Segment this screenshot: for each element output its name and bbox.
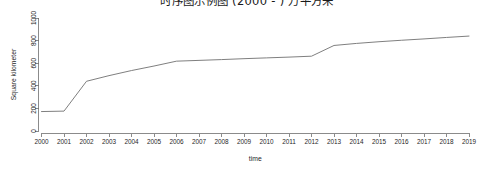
chart-screenshot: 时序图示例图 (2000 - ) 万平方米 02004006008001000S… [0,0,494,180]
x-tick-label: 2017 [417,138,432,145]
x-tick-label: 2015 [372,138,387,145]
x-tick-label: 2008 [214,138,229,145]
x-tick-label: 2006 [169,138,184,145]
x-tick-label: 2001 [57,138,72,145]
x-tick-label: 2018 [439,138,454,145]
line-chart-plot: 02004006008001000Square kilometer2000200… [0,0,494,180]
x-tick-label: 2011 [282,138,296,145]
x-tick-label: 2004 [124,138,139,145]
y-tick-label: 200 [30,103,37,114]
y-tick-label: 0 [30,129,37,133]
x-tick-label: 2000 [34,138,49,145]
x-tick-label: 2009 [237,138,252,145]
x-tick-label: 2019 [462,138,477,145]
y-axis-title: Square kilometer [10,48,18,100]
x-tick-label: 2003 [102,138,117,145]
x-tick-label: 2002 [79,138,94,145]
data-series-line [42,36,470,111]
x-tick-label: 2016 [394,138,409,145]
x-tick-label: 2012 [304,138,319,145]
x-axis-title: time [249,155,262,162]
y-tick-label: 1000 [30,10,37,25]
x-tick-label: 2010 [259,138,274,145]
x-tick-label: 2007 [192,138,207,145]
y-tick-label: 800 [30,35,37,46]
x-tick-label: 2005 [147,138,162,145]
x-tick-label: 2013 [327,138,342,145]
x-tick-label: 2014 [349,138,364,145]
y-tick-label: 600 [30,57,37,68]
y-tick-label: 400 [30,80,37,91]
